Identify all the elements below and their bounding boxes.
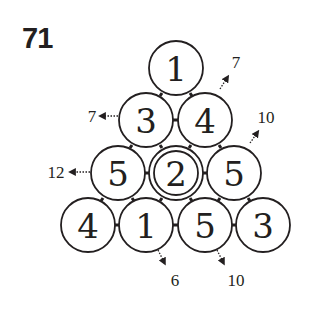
hint-left-row2: 7	[88, 107, 97, 126]
hint-bottom-1: 6	[171, 271, 180, 290]
cell-value: 4	[194, 101, 216, 141]
cell-value: 2	[165, 154, 187, 194]
cell-value: 3	[135, 101, 157, 141]
number-pyramid: 1 3 4 5 2 5 4 1 5 3 7 12 7 10 6 10	[0, 0, 314, 311]
hint-right-row2: 10	[258, 108, 275, 127]
cell-value: 3	[252, 206, 274, 246]
hint-bottom-2: 10	[228, 271, 245, 290]
cell-value: 4	[77, 206, 99, 246]
hint-left-row3: 12	[48, 163, 65, 182]
cell-value: 1	[165, 49, 187, 89]
cell-value: 5	[107, 154, 129, 194]
cell-value: 1	[135, 206, 157, 246]
hint-right-row1: 7	[232, 53, 241, 72]
cell-value: 5	[223, 154, 245, 194]
cell-value: 5	[194, 206, 216, 246]
